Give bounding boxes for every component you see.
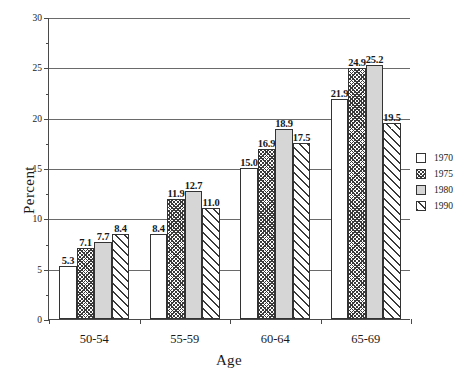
y-axis-tick-label: 25 (33, 63, 43, 73)
legend-item-1990[interactable]: 1990 (416, 199, 453, 212)
plot-area: 051015202530 5.37.17.78.48.411.912.711.0… (48, 18, 410, 320)
bar-value-label: 25.2 (366, 54, 384, 65)
bar-1980-55-59[interactable]: 12.7 (185, 191, 203, 319)
bar-slot: 15.0 (240, 18, 258, 319)
bar-slot: 11.0 (202, 18, 220, 319)
legend-item-1980[interactable]: 1980 (416, 183, 453, 196)
bar-1980-50-54[interactable]: 7.7 (94, 242, 112, 320)
bar-chart: Percent 051015202530 5.37.17.78.48.411.9… (0, 0, 464, 379)
bar-slot: 25.2 (366, 18, 384, 319)
bar-value-label: 18.9 (275, 118, 293, 129)
bar-value-label: 24.9 (348, 57, 366, 68)
y-axis-tick-label: 15 (33, 164, 43, 174)
bar-value-label: 16.9 (258, 138, 276, 149)
x-axis-tick-label: 50-54 (80, 332, 109, 347)
bar-1975-55-59[interactable]: 11.9 (167, 199, 185, 319)
bar-1980-60-64[interactable]: 18.9 (275, 129, 293, 319)
y-axis-tick-label: 20 (33, 114, 43, 124)
bar-slot: 7.7 (94, 18, 112, 319)
legend-label: 1980 (434, 185, 453, 195)
bar-value-label: 8.4 (152, 223, 165, 234)
bar-slot: 8.4 (112, 18, 130, 319)
y-axis-tick-label: 5 (37, 265, 42, 275)
y-axis-tick-label: 30 (33, 13, 43, 23)
legend-swatch-icon (416, 201, 426, 211)
bar-group: 15.016.918.917.5 (240, 18, 310, 319)
bar-1970-55-59[interactable]: 8.4 (150, 234, 168, 319)
bar-slot: 19.5 (383, 18, 401, 319)
legend-label: 1970 (434, 153, 453, 163)
bar-group: 5.37.17.78.4 (59, 18, 129, 319)
bar-value-label: 7.1 (79, 237, 92, 248)
bar-value-label: 7.7 (97, 231, 110, 242)
bar-value-label: 11.0 (203, 197, 220, 208)
bar-value-label: 19.5 (383, 112, 401, 123)
bar-value-label: 12.7 (185, 180, 203, 191)
legend: 1970197519801990 (416, 151, 453, 215)
bar-slot: 24.9 (348, 18, 366, 319)
bar-1990-55-59[interactable]: 11.0 (202, 208, 220, 319)
bar-group: 8.411.912.711.0 (150, 18, 220, 319)
legend-swatch-icon (416, 185, 426, 195)
bar-1975-50-54[interactable]: 7.1 (77, 248, 95, 319)
y-axis-tick-label: 10 (33, 214, 43, 224)
bar-1970-50-54[interactable]: 5.3 (59, 266, 77, 319)
bar-1970-65-69[interactable]: 21.9 (331, 99, 349, 319)
bar-slot: 18.9 (275, 18, 293, 319)
x-axis-tick (321, 319, 322, 324)
bar-1975-60-64[interactable]: 16.9 (258, 149, 276, 319)
bar-slot: 11.9 (167, 18, 185, 319)
x-axis-tick (140, 319, 141, 324)
bar-slot: 5.3 (59, 18, 77, 319)
x-axis-tick-label: 60-64 (261, 332, 290, 347)
legend-label: 1975 (434, 169, 453, 179)
bar-value-label: 15.0 (240, 157, 258, 168)
bar-slot: 8.4 (150, 18, 168, 319)
bar-1975-65-69[interactable]: 24.9 (348, 68, 366, 319)
bar-value-label: 11.9 (168, 188, 185, 199)
bar-value-label: 17.5 (293, 132, 311, 143)
bar-1970-60-64[interactable]: 15.0 (240, 168, 258, 319)
bar-value-label: 5.3 (62, 255, 75, 266)
bar-1990-65-69[interactable]: 19.5 (383, 123, 401, 319)
x-axis-title: Age (48, 352, 410, 369)
legend-swatch-icon (416, 153, 426, 163)
x-axis-tick (49, 319, 50, 324)
bar-1990-50-54[interactable]: 8.4 (112, 234, 130, 319)
bar-1990-60-64[interactable]: 17.5 (293, 143, 311, 319)
bar-slot: 16.9 (258, 18, 276, 319)
bar-value-label: 8.4 (114, 223, 127, 234)
legend-label: 1990 (434, 201, 453, 211)
legend-swatch-icon (416, 169, 426, 179)
bar-slot: 7.1 (77, 18, 95, 319)
bar-group: 21.924.925.219.5 (331, 18, 401, 319)
bar-slot: 12.7 (185, 18, 203, 319)
legend-item-1975[interactable]: 1975 (416, 167, 453, 180)
bar-slot: 21.9 (331, 18, 349, 319)
bar-1980-65-69[interactable]: 25.2 (366, 65, 384, 319)
bar-value-label: 21.9 (331, 88, 349, 99)
x-axis-tick (230, 319, 231, 324)
bars-layer: 5.37.17.78.48.411.912.711.015.016.918.91… (49, 18, 410, 319)
x-axis-tick-label: 55-59 (170, 332, 199, 347)
bar-slot: 17.5 (293, 18, 311, 319)
x-axis-tick-label: 65-69 (351, 332, 380, 347)
legend-item-1970[interactable]: 1970 (416, 151, 453, 164)
y-axis-tick-label: 0 (37, 315, 42, 325)
x-axis-tick (411, 319, 412, 324)
